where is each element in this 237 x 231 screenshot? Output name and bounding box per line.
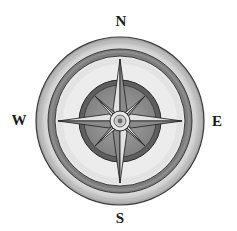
compass-rose-icon: [0, 0, 237, 231]
center-pin: [118, 119, 123, 124]
compass-illustration: N S W E: [0, 0, 237, 231]
